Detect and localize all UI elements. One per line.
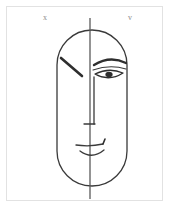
artboard: x v (0, 0, 171, 209)
diagonal-slash-icon (61, 58, 82, 76)
lower-lip-icon (80, 150, 104, 155)
mouth-corner-tick-icon (103, 139, 105, 144)
head-oval-icon (57, 30, 127, 186)
v-mark: v (128, 14, 132, 22)
eye-crease-icon (93, 67, 126, 70)
x-mark: x (43, 14, 47, 22)
face-line-drawing (0, 0, 171, 209)
eyebrow-arc-icon (94, 59, 126, 65)
pupil-icon (105, 72, 112, 78)
